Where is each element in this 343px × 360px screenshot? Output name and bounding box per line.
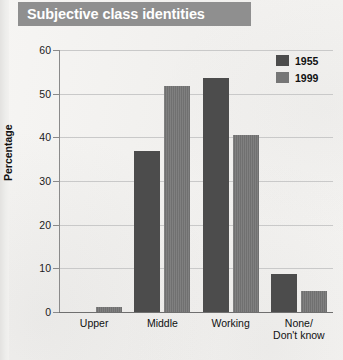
x-tick-label: Middle xyxy=(128,318,196,330)
y-tick-mark xyxy=(53,268,59,269)
y-tick-label: 50 xyxy=(27,88,51,100)
legend-item-1955[interactable]: 1955 xyxy=(276,52,338,69)
bar-1999-working xyxy=(233,135,259,312)
legend-label: 1955 xyxy=(295,55,318,67)
plot-area xyxy=(60,50,333,312)
legend-swatch-icon xyxy=(276,55,289,66)
legend-item-1999[interactable]: 1999 xyxy=(276,69,338,86)
bar-1955-middle xyxy=(134,151,160,312)
y-tick-mark xyxy=(53,225,59,226)
x-axis-line xyxy=(59,312,333,313)
y-tick-label: 10 xyxy=(27,262,51,274)
y-tick-label: 20 xyxy=(27,219,51,231)
y-tick-mark xyxy=(53,137,59,138)
chart-legend: 19551999 xyxy=(276,52,338,86)
legend-swatch-icon xyxy=(276,72,289,83)
y-tick-mark xyxy=(53,312,59,313)
y-tick-label: 0 xyxy=(27,306,51,318)
legend-label: 1999 xyxy=(295,72,318,84)
bar-1999-middle xyxy=(164,86,190,312)
y-tick-label: 40 xyxy=(27,131,51,143)
y-tick-mark xyxy=(53,94,59,95)
y-tick-label: 60 xyxy=(27,44,51,56)
y-axis-title: Percentage xyxy=(2,124,14,181)
x-tick-label: Working xyxy=(197,318,265,330)
x-tick-label: None/ Don't know xyxy=(265,318,333,341)
bar-chart: Percentage 0102030405060 UpperMiddleWork… xyxy=(0,0,343,360)
bar-1955-nonedontknow xyxy=(271,274,297,312)
x-tick-label: Upper xyxy=(60,318,128,330)
bar-1955-working xyxy=(203,78,229,312)
bar-1999-nonedontknow xyxy=(301,291,327,312)
y-tick-mark xyxy=(53,50,59,51)
y-tick-label: 30 xyxy=(27,175,51,187)
y-tick-mark xyxy=(53,181,59,182)
bar-1999-upper xyxy=(96,307,122,312)
